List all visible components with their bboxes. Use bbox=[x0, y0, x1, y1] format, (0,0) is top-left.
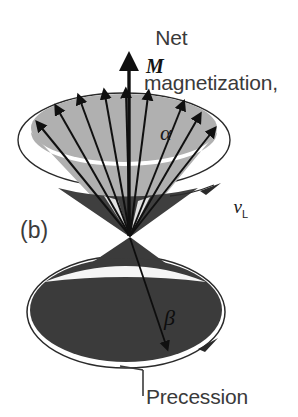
larmor-subscript: L bbox=[242, 207, 248, 219]
precession-caption: Precession bbox=[146, 386, 248, 409]
lower-cone-group bbox=[27, 237, 225, 368]
larmor-frequency-label: νL bbox=[224, 176, 248, 220]
larmor-symbol: ν bbox=[234, 196, 242, 217]
net-magnetization-label-line1: Net bbox=[155, 26, 187, 49]
alpha-angle-label: α bbox=[160, 121, 172, 145]
net-magnetization-label-line2: magnetization, bbox=[144, 72, 278, 95]
beta-angle-label: β bbox=[164, 306, 175, 330]
net-magnetization-label: Net magnetization, bbox=[144, 4, 278, 117]
vector-m-label: M bbox=[146, 56, 164, 78]
panel-label: (b) bbox=[20, 218, 48, 243]
